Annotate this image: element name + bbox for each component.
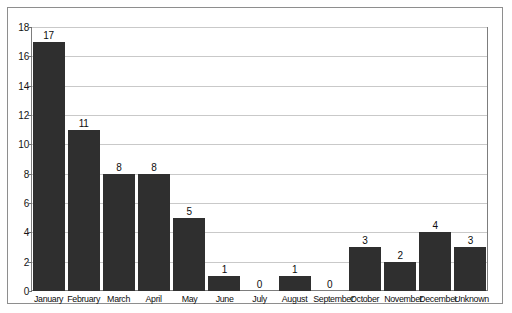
bars-layer: 171188510103243 xyxy=(31,27,488,291)
x-axis-label-august: August xyxy=(278,292,311,306)
x-axis-label-december: December xyxy=(419,292,452,306)
bar-column[interactable]: 1 xyxy=(207,27,242,291)
bar[interactable] xyxy=(454,247,486,291)
bar-column[interactable]: 1 xyxy=(277,27,312,291)
x-axis-label-september: September xyxy=(313,292,346,306)
x-axis-label-march: March xyxy=(103,292,136,306)
bar-column[interactable]: 3 xyxy=(453,27,488,291)
bar[interactable] xyxy=(279,276,311,291)
bar-value-label: 1 xyxy=(277,264,312,275)
bar[interactable] xyxy=(103,174,135,291)
bar-value-label: 1 xyxy=(207,264,242,275)
bar-column[interactable]: 3 xyxy=(347,27,382,291)
bar-value-label: 3 xyxy=(453,235,488,246)
bar-value-label: 3 xyxy=(347,235,382,246)
bar[interactable] xyxy=(33,42,65,291)
bar-value-label: 4 xyxy=(418,220,453,231)
x-axis-label-july: July xyxy=(243,292,276,306)
bar[interactable] xyxy=(208,276,240,291)
bar[interactable] xyxy=(138,174,170,291)
bar-value-label: 8 xyxy=(136,162,171,173)
bar[interactable] xyxy=(349,247,381,291)
x-axis-label-february: February xyxy=(67,292,100,306)
x-axis-label-april: April xyxy=(138,292,171,306)
x-axis-label-unknown: Unknown xyxy=(454,292,487,306)
bar-value-label: 11 xyxy=(66,118,101,129)
bar-column[interactable]: 5 xyxy=(172,27,207,291)
bar-column[interactable]: 17 xyxy=(31,27,66,291)
bar-value-label: 0 xyxy=(312,279,347,290)
x-axis-category-labels: JanuaryFebruaryMarchAprilMayJuneJulyAugu… xyxy=(31,292,488,308)
bar-value-label: 17 xyxy=(31,30,66,41)
bar-value-label: 8 xyxy=(101,162,136,173)
bar-column[interactable]: 0 xyxy=(242,27,277,291)
y-axis-tick-labels: 024681012141618 xyxy=(15,27,29,291)
x-axis-label-november: November xyxy=(384,292,417,306)
x-axis-label-october: October xyxy=(349,292,382,306)
bar-column[interactable]: 2 xyxy=(383,27,418,291)
x-axis-label-january: January xyxy=(32,292,65,306)
bar-value-label: 0 xyxy=(242,279,277,290)
bar[interactable] xyxy=(68,130,100,291)
bar-value-label: 5 xyxy=(172,206,207,217)
bar-column[interactable]: 0 xyxy=(312,27,347,291)
bar-column[interactable]: 8 xyxy=(101,27,136,291)
bar-value-label: 2 xyxy=(383,250,418,261)
x-axis-label-june: June xyxy=(208,292,241,306)
bar-column[interactable]: 8 xyxy=(136,27,171,291)
chart-figure-frame: 024681012141618 171188510103243 JanuaryF… xyxy=(7,7,503,304)
bar[interactable] xyxy=(173,218,205,291)
x-axis-label-may: May xyxy=(173,292,206,306)
bar-column[interactable]: 4 xyxy=(418,27,453,291)
bar[interactable] xyxy=(419,232,451,291)
bar[interactable] xyxy=(384,262,416,291)
bar-column[interactable]: 11 xyxy=(66,27,101,291)
